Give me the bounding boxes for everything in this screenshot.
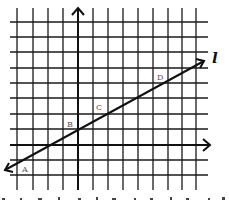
x-axis [10,139,210,151]
line-l [5,59,204,172]
point-label-d: D [157,74,163,82]
point-label-b: B [67,121,73,129]
coordinate-grid-figure [0,0,229,201]
point-label-c: C [96,104,102,112]
line-label: l [212,51,218,66]
point-label-a: A [22,166,28,174]
cut-off-text-fragment [0,195,229,201]
grid-lines [10,8,208,190]
y-axis [72,8,84,190]
